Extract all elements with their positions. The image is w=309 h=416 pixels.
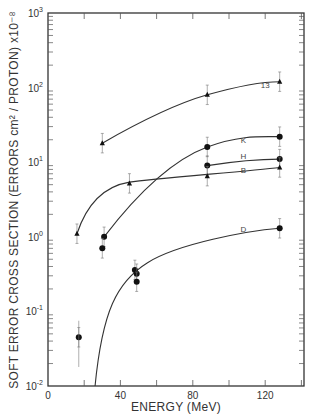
axis-ticks: 0408012010-210-1100101102103 [26, 6, 304, 401]
curve-labels: 13KHBD [241, 81, 271, 235]
x-axis-title: ENERGY (MeV) [131, 400, 221, 414]
curve-label-b: B [241, 166, 246, 175]
x-tick-label: 120 [257, 390, 274, 401]
cross-section-chart: 0408012010-210-1100101102103 13KHBD ENER… [0, 0, 309, 416]
circle-marker [277, 134, 283, 140]
y-tick-label: 10-1 [26, 304, 43, 317]
curve-label-d: D [241, 225, 247, 234]
curve-b [77, 167, 280, 233]
x-tick-label: 0 [45, 390, 51, 401]
circle-marker [134, 279, 140, 285]
circle-marker [204, 144, 210, 150]
curve-13 [102, 82, 279, 143]
curve-label-h: H [241, 152, 247, 161]
x-tick-label: 40 [115, 390, 127, 401]
y-tick-label: 100 [28, 230, 43, 243]
plot-border [48, 13, 304, 386]
curve-k [104, 137, 280, 237]
y-tick-label: 10-2 [26, 379, 43, 392]
plot-frame [48, 13, 304, 386]
curve-d [95, 228, 280, 386]
curve-label-13: 13 [261, 81, 270, 90]
y-tick-label: 102 [28, 81, 43, 94]
triangle-marker [277, 164, 282, 169]
triangle-marker [74, 231, 79, 236]
y-tick-label: 101 [28, 155, 43, 168]
circle-marker [99, 245, 105, 251]
curve-label-k: K [241, 136, 247, 145]
y-axis-title: SOFT ERROR CROSS SECTION (ERRORS cm² / P… [7, 11, 21, 389]
fit-curves [77, 82, 280, 386]
y-tick-label: 103 [28, 6, 43, 19]
circle-marker [277, 225, 283, 231]
